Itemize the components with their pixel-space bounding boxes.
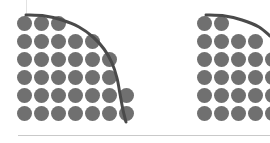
arc-path bbox=[26, 15, 126, 122]
arc-curve-right bbox=[180, 0, 270, 143]
arc-path bbox=[206, 15, 270, 36]
chart-panel-right bbox=[180, 0, 270, 143]
arc-curve-left bbox=[0, 0, 140, 143]
chart-panel-left bbox=[0, 0, 140, 143]
figure-canvas bbox=[0, 0, 270, 143]
bottom-separator-rule bbox=[18, 135, 270, 136]
